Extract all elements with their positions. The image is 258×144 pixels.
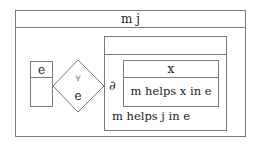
partial-operator-symbol: ∂ (109, 79, 116, 92)
right-header-divider (104, 54, 227, 55)
forall-symbol: ∀ (68, 74, 88, 83)
inner-header-divider (123, 77, 219, 78)
quantifier-variable: e (68, 90, 88, 102)
inner-header-label: x (123, 63, 219, 75)
right-condition: m helps j in e (112, 111, 190, 123)
inner-condition: m helps x in e (123, 86, 219, 98)
